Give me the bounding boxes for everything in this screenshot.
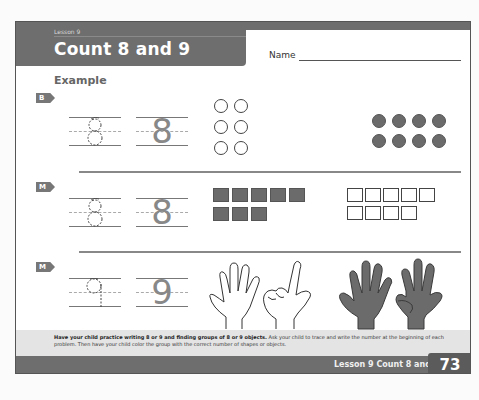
filled-hands-group[interactable] — [336, 255, 448, 335]
title-tab: Lesson 9 Count 8 and 9 — [16, 22, 246, 66]
worksheet-page: Lesson 9 Count 8 and 9 Name Example B 8 … — [15, 21, 471, 374]
dashed-eight-trace-icon — [69, 117, 121, 147]
name-field[interactable] — [299, 60, 461, 61]
trace-box[interactable] — [69, 117, 121, 147]
divider — [79, 251, 461, 253]
write-box[interactable]: 8 — [136, 117, 188, 147]
example-digit: 8 — [136, 194, 188, 230]
note-bold: Have your child practice writing 8 or 9 … — [54, 334, 267, 340]
parent-note-text: Have your child practice writing 8 or 9 … — [54, 334, 464, 348]
page-title: Count 8 and 9 — [54, 39, 190, 59]
trace-box[interactable] — [69, 198, 121, 228]
filled-hands-icon — [336, 255, 448, 331]
name-label: Name — [269, 50, 296, 60]
level-tag-b: B — [36, 93, 55, 103]
write-box[interactable]: 9 — [136, 278, 188, 308]
write-box[interactable]: 8 — [136, 198, 188, 228]
outline-hands-group[interactable] — [206, 255, 316, 335]
footer-title: Lesson 9 Count 8 and 9 — [334, 360, 439, 369]
dashed-eight-trace-icon — [69, 198, 121, 228]
dashed-nine-trace-icon — [69, 278, 121, 310]
level-tag-m: M — [36, 262, 55, 272]
example-label: Example — [54, 74, 107, 87]
divider — [79, 171, 461, 173]
footer-bar: Lesson 9 Count 8 and 9 73 — [16, 356, 470, 374]
level-tag-m: M — [36, 182, 55, 192]
example-digit: 9 — [136, 274, 188, 310]
page-number: 73 — [428, 353, 471, 374]
outline-hands-icon — [206, 255, 316, 331]
lesson-rule — [54, 36, 246, 37]
example-digit: 8 — [136, 113, 188, 149]
parent-note: Have your child practice writing 8 or 9 … — [16, 330, 470, 356]
lesson-label: Lesson 9 — [54, 28, 80, 35]
trace-box[interactable] — [69, 278, 121, 308]
